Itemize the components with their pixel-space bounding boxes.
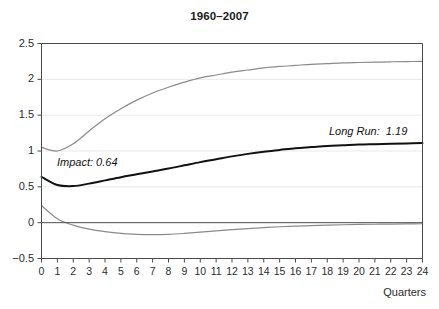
chart-figure: 1960–2007 2.521.510.50−0.5 0123456789101… <box>0 0 439 309</box>
annotation-long-run: Long Run: 1.19 <box>329 125 407 137</box>
x-tick-label: 24 <box>414 265 432 277</box>
y-tick-label: 2.5 <box>0 37 34 49</box>
series-line-upper-confidence-band <box>42 61 423 151</box>
series-curves-group <box>42 61 423 234</box>
y-tick-label: 0 <box>0 216 34 228</box>
x-axis-title: Quarters <box>383 286 426 298</box>
y-tick-label: 0.5 <box>0 180 34 192</box>
y-tick-label: 1 <box>0 144 34 156</box>
annotation-impact: Impact: 0.64 <box>57 156 118 168</box>
y-tick-label: 2 <box>0 72 34 84</box>
series-line-lower-confidence-band <box>42 205 423 234</box>
plot-area <box>0 0 439 309</box>
y-tick-label: 1.5 <box>0 108 34 120</box>
gridlines-group <box>42 79 423 222</box>
y-tick-label: −0.5 <box>0 252 34 264</box>
